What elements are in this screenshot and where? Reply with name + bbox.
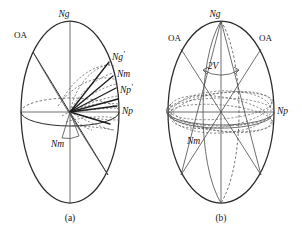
- label-oa-a: OA: [14, 30, 27, 40]
- label-oa-left-b: OA: [168, 33, 181, 43]
- label-2v-b: 2V: [208, 61, 220, 71]
- label-ng-top-b: Ng: [208, 9, 220, 19]
- label-ng-top-a: Ng: [57, 9, 69, 19]
- caption-b: (b): [215, 213, 226, 224]
- panel-b-diagram: Ng OA OA 2V Np Nm (b): [151, 0, 302, 232]
- label-nm-lower-b: Nm: [186, 136, 200, 146]
- label-ng-prime-a: Ng': [111, 50, 125, 62]
- label-np-right-b: Np: [276, 106, 288, 116]
- figure-root: Ng OA Ng' Nm Np' Np Nm (a): [0, 0, 302, 232]
- caption-a: (a): [65, 213, 76, 224]
- dashed-arc-a-7: [70, 112, 112, 130]
- panel-a-diagram: Ng OA Ng' Nm Np' Np Nm (a): [0, 0, 151, 232]
- label-np-right-a: Np: [121, 106, 133, 116]
- wedge-left-a: [62, 112, 70, 138]
- label-np-prime-a: Np': [119, 83, 133, 95]
- ray-ng-prime-a: [70, 62, 109, 112]
- wedge-right-a: [70, 112, 79, 136]
- wedge-arc-a: [62, 136, 79, 139]
- label-nm-right-a: Nm: [116, 69, 130, 79]
- label-oa-right-b: OA: [259, 33, 272, 43]
- label-nm-lower-a: Nm: [50, 139, 64, 149]
